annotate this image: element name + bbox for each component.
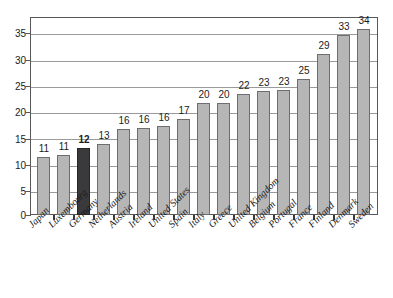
x-label-japan: Japan bbox=[26, 205, 51, 230]
bar-chart: 0 5 10 15 20 25 30 35 11 11 12 bbox=[0, 0, 393, 298]
x-axis-labels: Japan Luxembourg Germany Netherlands Aus… bbox=[0, 0, 393, 298]
